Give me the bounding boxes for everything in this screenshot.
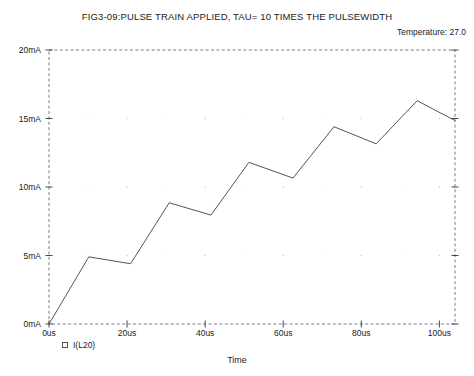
grid-dot [361,255,362,256]
grid-dot [204,186,205,187]
axis-frame [49,50,455,324]
data-series-line [49,101,455,324]
grid-dot [204,255,205,256]
grid-dot [361,118,362,119]
grid-dot [126,118,127,119]
grid-dot [322,255,323,256]
grid-dot [87,186,88,187]
grid-dot [244,118,245,119]
legend-label: I(L20) [73,340,95,350]
grid-dot [283,255,284,256]
grid-dot [400,255,401,256]
x-axis-title: Time [0,355,474,365]
grid-dot [126,186,127,187]
grid-dot [166,255,167,256]
grid-dot [87,118,88,119]
grid-dot [126,255,127,256]
grid-dot [439,118,440,119]
grid-dot [283,118,284,119]
grid-dot [361,186,362,187]
grid-dot [166,118,167,119]
plot-area [0,0,474,376]
grid-dot [166,186,167,187]
grid-dot [322,118,323,119]
grid-dot [244,186,245,187]
grid-dot [400,186,401,187]
grid-dot [439,186,440,187]
grid-dot [283,186,284,187]
grid-dot [439,255,440,256]
grid-dot [244,255,245,256]
legend: I(L20) [62,340,95,350]
grid-dot [322,186,323,187]
chart-container: FIG3-09:PULSE TRAIN APPLIED, TAU= 10 TIM… [0,0,474,376]
grid-dot [204,118,205,119]
grid-dot [87,255,88,256]
legend-marker-icon [62,342,68,348]
